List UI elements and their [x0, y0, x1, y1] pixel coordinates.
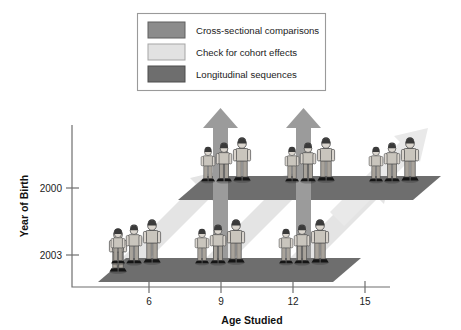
x-ticklabel-6: 6	[146, 296, 152, 307]
group-2003-age-9	[195, 219, 244, 265]
legend-item-cohort-effects: Check for cohort effects	[148, 44, 297, 60]
group-2000-age-9	[201, 137, 250, 183]
figure-canvas: Cross-sectional comparisons Check for co…	[0, 0, 461, 330]
y-axis-title: Year of Birth	[18, 175, 30, 237]
x-axis-title: Age Studied	[221, 314, 282, 326]
x-ticklabel-15: 15	[359, 296, 371, 307]
y-ticklabel-2003: 2003	[40, 250, 63, 261]
cross-arrow-age9-head	[203, 108, 238, 128]
legend-label-longitudinal: Longitudinal sequences	[196, 69, 297, 80]
legend-label-cross-sectional: Cross-sectional comparisons	[196, 25, 319, 36]
legend: Cross-sectional comparisons Check for co…	[138, 14, 326, 91]
group-2000-age-15	[369, 137, 418, 183]
legend-item-cross-sectional: Cross-sectional comparisons	[148, 22, 319, 38]
group-2003-age-12	[279, 219, 328, 265]
x-ticklabel-9: 9	[218, 296, 224, 307]
legend-label-cohort-effects: Check for cohort effects	[196, 47, 297, 58]
group-2000-age-12	[285, 137, 334, 183]
sequential-design-diagram: Cross-sectional comparisons Check for co…	[0, 0, 461, 330]
y-ticklabel-2000: 2000	[40, 183, 63, 194]
legend-swatch-cross-sectional	[148, 22, 185, 38]
legend-swatch-longitudinal	[148, 66, 185, 82]
legend-item-longitudinal: Longitudinal sequences	[148, 66, 297, 82]
x-ticklabel-12: 12	[287, 296, 299, 307]
cross-arrow-age12-head	[286, 108, 321, 128]
legend-swatch-cohort-effects	[148, 44, 185, 60]
